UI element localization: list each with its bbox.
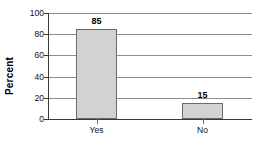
plot-area: 85 15 — [48, 13, 252, 119]
y-tick-label: 100 — [14, 9, 44, 18]
y-tick-mark — [44, 13, 48, 14]
x-tick-label-yes: Yes — [90, 126, 104, 135]
bar-no — [182, 103, 223, 119]
y-tick-label: 0 — [14, 115, 44, 124]
x-axis: Yes No — [48, 119, 252, 149]
y-tick-label: 80 — [14, 30, 44, 39]
bar-value-label: 15 — [197, 91, 207, 100]
y-tick-mark — [44, 98, 48, 99]
y-axis-tick-labels: 100 80 60 40 20 0 — [14, 0, 44, 152]
y-tick-label: 60 — [14, 51, 44, 60]
bar-value-label: 85 — [91, 17, 101, 26]
y-tick-label: 40 — [14, 72, 44, 81]
y-axis-line — [48, 13, 49, 119]
gridline-100 — [48, 13, 252, 14]
x-tick-mark — [203, 119, 204, 124]
x-tick-mark — [97, 119, 98, 124]
bar-yes — [76, 29, 117, 119]
bar-chart: Percent 100 80 60 40 20 0 85 15 — [0, 0, 261, 152]
y-tick-label: 20 — [14, 94, 44, 103]
x-tick-label-no: No — [197, 126, 208, 135]
y-tick-mark — [44, 55, 48, 56]
y-tick-mark — [44, 34, 48, 35]
y-tick-mark — [44, 77, 48, 78]
